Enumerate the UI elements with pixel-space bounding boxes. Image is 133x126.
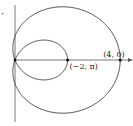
corner-dot-marker: · (1, 8, 4, 19)
origin-marker (14, 59, 17, 62)
axis-arrow-icon (128, 58, 133, 62)
labeled-points: (4, 0)(−2, π) (14, 50, 125, 71)
point-label: (4, 0) (103, 50, 125, 59)
polar-plot: · (4, 0)(−2, π) (0, 0, 133, 126)
point-label: (−2, π) (70, 62, 98, 71)
